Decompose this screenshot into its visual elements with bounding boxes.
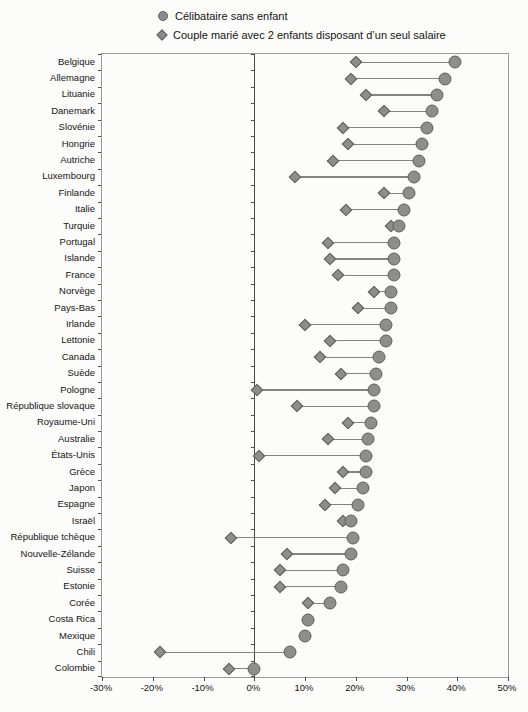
y-axis-tick — [98, 464, 101, 465]
connector-line — [343, 127, 427, 128]
data-point-single — [248, 662, 261, 675]
zero-axis-tick — [251, 70, 254, 71]
x-tick-label: 40% — [436, 682, 476, 693]
connector-line — [320, 357, 378, 358]
connector-line — [366, 94, 437, 95]
y-axis-tick — [98, 529, 101, 530]
category-label: Costa Rica — [0, 613, 95, 624]
data-point-couple — [324, 253, 337, 266]
data-point-single — [392, 220, 405, 233]
data-point-single — [385, 302, 398, 315]
y-axis-tick — [98, 661, 101, 662]
zero-axis-tick — [251, 562, 254, 563]
y-axis-tick — [98, 234, 101, 235]
data-point-couple — [314, 351, 327, 364]
data-point-single — [367, 384, 380, 397]
data-point-couple — [281, 548, 294, 561]
category-label: Italie — [0, 203, 95, 214]
y-axis-tick — [98, 333, 101, 334]
data-point-couple — [223, 662, 236, 675]
category-label: Mexique — [0, 630, 95, 641]
y-axis-tick — [98, 267, 101, 268]
legend-item-couple: Couple marié avec 2 enfants disposant d’… — [158, 26, 446, 43]
zero-axis-tick — [251, 300, 254, 301]
data-point-single — [430, 88, 443, 101]
data-point-single — [347, 531, 360, 544]
data-point-single — [372, 351, 385, 364]
connector-line — [330, 258, 393, 259]
category-label: Suisse — [0, 564, 95, 575]
x-axis-tick — [102, 677, 103, 681]
zero-axis-tick — [251, 103, 254, 104]
zero-axis-tick — [251, 185, 254, 186]
legend-label-single: Célibataire sans enfant — [175, 10, 288, 22]
category-label: Luxembourg — [0, 170, 95, 181]
zero-axis-tick — [251, 234, 254, 235]
data-point-couple — [301, 597, 314, 610]
category-label: Israël — [0, 515, 95, 526]
y-axis-tick — [98, 300, 101, 301]
data-point-single — [370, 367, 383, 380]
connector-line — [280, 570, 343, 571]
x-tick-label: 50% — [487, 682, 527, 693]
zero-axis-tick — [251, 54, 254, 55]
plot-area — [101, 53, 509, 678]
chart-legend: Célibataire sans enfant Couple marié ave… — [158, 7, 446, 43]
category-label: République tchèque — [0, 531, 95, 542]
category-label: Turquie — [0, 220, 95, 231]
data-point-couple — [273, 564, 286, 577]
y-axis-tick — [98, 447, 101, 448]
zero-axis-tick — [251, 628, 254, 629]
zero-axis-tick — [251, 529, 254, 530]
data-point-single — [387, 252, 400, 265]
connector-line — [351, 78, 445, 79]
data-point-single — [397, 203, 410, 216]
data-point-couple — [342, 138, 355, 151]
y-axis-tick — [98, 87, 101, 88]
zero-axis-tick — [251, 366, 254, 367]
category-label: République slovaque — [0, 400, 95, 411]
data-point-single — [387, 269, 400, 282]
data-point-single — [364, 416, 377, 429]
data-point-couple — [367, 285, 380, 298]
connector-line — [259, 455, 366, 456]
y-axis-tick — [98, 415, 101, 416]
zero-axis-tick — [251, 251, 254, 252]
data-point-single — [385, 285, 398, 298]
y-axis-tick — [98, 54, 101, 55]
zero-axis-tick — [251, 546, 254, 547]
category-label: Slovénie — [0, 121, 95, 132]
category-label: Lituanie — [0, 88, 95, 99]
y-axis-tick — [98, 497, 101, 498]
data-point-single — [438, 72, 451, 85]
data-point-couple — [342, 417, 355, 430]
x-tick-label: 20% — [335, 682, 375, 693]
data-point-couple — [321, 236, 334, 249]
data-point-single — [301, 613, 314, 626]
connector-line — [297, 406, 373, 407]
data-point-couple — [352, 302, 365, 315]
category-label: États-Unis — [0, 449, 95, 460]
data-point-couple — [337, 121, 350, 134]
y-axis-tick — [98, 366, 101, 367]
y-axis-tick — [98, 546, 101, 547]
category-label: Espagne — [0, 498, 95, 509]
data-point-single — [334, 580, 347, 593]
category-label: Canada — [0, 351, 95, 362]
data-point-single — [408, 170, 421, 183]
x-axis-tick — [204, 677, 205, 681]
zero-axis-tick — [251, 611, 254, 612]
y-axis-tick — [98, 349, 101, 350]
category-label: Lettonie — [0, 334, 95, 345]
zero-axis-tick — [251, 120, 254, 121]
data-point-single — [359, 449, 372, 462]
data-point-couple — [321, 433, 334, 446]
zero-axis-tick — [251, 284, 254, 285]
y-axis-tick — [98, 431, 101, 432]
data-point-single — [420, 121, 433, 134]
category-label: Norvège — [0, 285, 95, 296]
y-axis-tick — [98, 595, 101, 596]
zero-axis-tick — [251, 676, 254, 677]
connector-line — [328, 242, 394, 243]
zero-axis-tick — [251, 202, 254, 203]
